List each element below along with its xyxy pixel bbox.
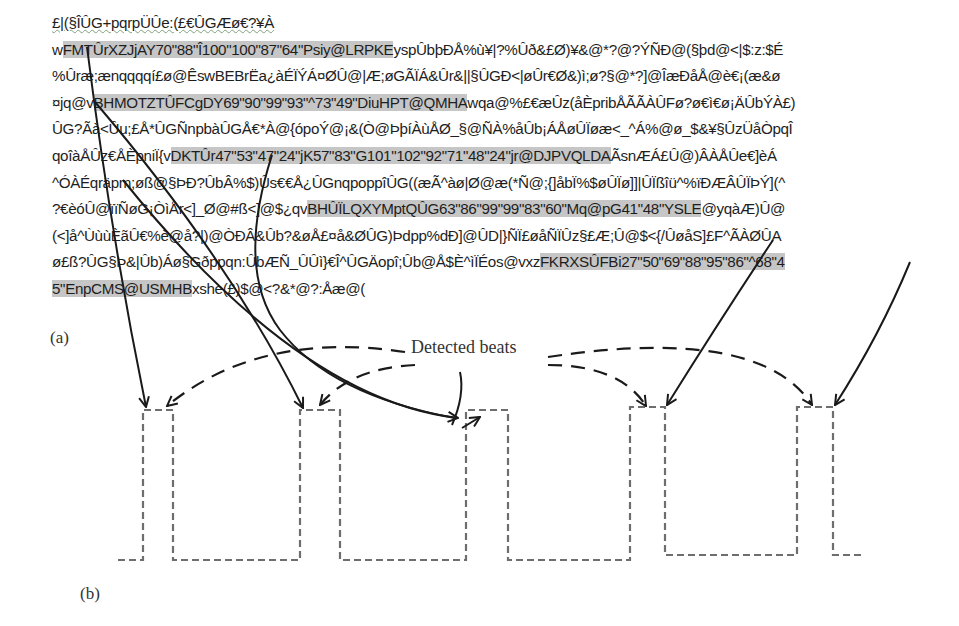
- dashed-arrow-beat-5: [548, 348, 812, 405]
- dashed-arrow-beat-4: [548, 365, 646, 406]
- arrow-segment-1: [87, 47, 146, 407]
- square-wave-signal: [118, 407, 865, 560]
- arrow-segment-3b: [255, 155, 455, 418]
- detected-beats-label: Detected beats: [411, 337, 516, 358]
- panel-b-label: (b): [80, 584, 100, 604]
- panel-a-label: (a): [50, 328, 69, 348]
- arrow-segment-5: [835, 262, 910, 405]
- arrow-segment-2: [95, 102, 303, 408]
- dashed-arrow-beat-2: [320, 365, 415, 405]
- arrow-short-3c: [462, 417, 480, 428]
- beat-diagram: [0, 0, 959, 626]
- arrow-segment-4: [667, 240, 773, 405]
